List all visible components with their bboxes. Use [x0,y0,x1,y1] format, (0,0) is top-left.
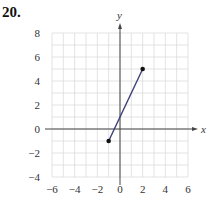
coordinate-plane: xy−6−4−2024686420−2−4 [0,0,211,200]
y-tick-label: 6 [35,51,41,63]
y-axis-label: y [116,9,122,21]
x-axis-arrow-icon [192,127,198,131]
x-axis-label: x [200,123,206,135]
y-tick-label: 0 [35,123,41,135]
x-tick-label: 0 [117,183,123,195]
y-axis-arrow-icon [118,23,122,29]
x-tick-label: 4 [163,183,169,195]
y-tick-label: 8 [35,27,41,39]
x-tick-label: 6 [185,183,191,195]
x-tick-label: 2 [140,183,146,195]
endpoint-dot [106,139,111,144]
y-tick-label: −4 [28,171,40,183]
y-tick-label: 4 [35,75,41,87]
x-tick-label: −2 [91,183,103,195]
x-tick-label: −4 [69,183,81,195]
x-tick-label: −6 [46,183,58,195]
y-tick-label: 2 [35,99,41,111]
y-tick-label: −2 [28,147,40,159]
endpoint-dot [140,67,145,72]
